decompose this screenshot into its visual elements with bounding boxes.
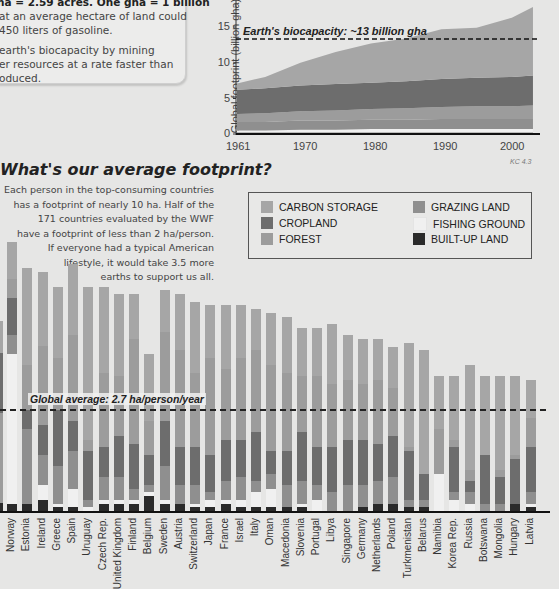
segment-cropland xyxy=(495,477,505,503)
segment-forest xyxy=(526,418,536,448)
segment-carbon-storage xyxy=(312,328,322,377)
segment-forest xyxy=(495,470,505,477)
bar-oman xyxy=(266,313,276,511)
segment-grazing-land xyxy=(205,492,215,499)
segment-forest xyxy=(144,421,154,455)
segment-cropland xyxy=(83,451,93,500)
segment-forest xyxy=(358,384,368,440)
segment-carbon-storage xyxy=(297,328,307,377)
segment-fishing-ground xyxy=(434,474,444,511)
segment-forest xyxy=(83,440,93,451)
segment-grazing-land xyxy=(343,485,353,511)
segment-grazing-land xyxy=(221,481,231,500)
segment-grazing-land xyxy=(38,455,48,485)
segment-cropland xyxy=(22,410,32,429)
bar-norway xyxy=(7,242,17,511)
segment-carbon-storage xyxy=(358,339,368,384)
country-label: Singapore xyxy=(341,518,352,564)
segment-grazing-land xyxy=(129,489,139,500)
country-label: Poland xyxy=(386,518,397,549)
segment-grazing-land xyxy=(144,485,154,492)
segment-carbon-storage xyxy=(495,376,505,470)
bar-macedonia xyxy=(282,317,292,511)
bar-estonia xyxy=(22,268,32,511)
segment-grazing-land xyxy=(68,451,78,488)
segment-carbon-storage xyxy=(266,313,276,365)
segment-grazing-land xyxy=(236,477,246,499)
bar-turkmenistan xyxy=(404,343,414,511)
segment-cropland xyxy=(312,447,322,484)
segment-grazing-land xyxy=(160,466,170,500)
segment-grazing-land xyxy=(480,504,490,511)
segment-cropland xyxy=(480,455,490,504)
segment-grazing-land xyxy=(53,466,63,503)
bar-mongolia xyxy=(495,376,505,511)
segment-forest xyxy=(38,346,48,425)
bar-slovenia xyxy=(297,328,307,511)
segment-cropland xyxy=(53,410,63,466)
country-label: Macedonia xyxy=(280,518,291,567)
segment-forest xyxy=(160,332,170,422)
segment-grazing-land xyxy=(419,500,429,507)
country-label: Netherlands xyxy=(371,518,382,572)
segment-forest xyxy=(465,470,475,481)
segment-cropland xyxy=(282,451,292,485)
segment-forest xyxy=(129,339,139,444)
segment-cropland xyxy=(526,447,536,492)
segment-carbon-storage xyxy=(205,305,215,357)
country-label: Greece xyxy=(51,518,62,551)
segment-grazing-land xyxy=(327,492,337,511)
segment-forest xyxy=(449,440,459,447)
country-label: Mongolia xyxy=(493,518,504,559)
segment-carbon-storage xyxy=(343,335,353,380)
segment-fishing-ground xyxy=(236,500,246,507)
bar-ireland xyxy=(38,272,48,511)
country-label: Namibia xyxy=(432,518,443,555)
segment-cropland xyxy=(465,481,475,492)
segment-grazing-land xyxy=(404,500,414,507)
segment-cropland xyxy=(358,440,368,485)
bar-hungary xyxy=(510,376,520,511)
segment-carbon-storage xyxy=(388,347,398,388)
segment-cropland xyxy=(236,440,246,477)
segment-built-up-land xyxy=(175,504,185,511)
segment-cropland xyxy=(449,447,459,492)
segment-carbon-storage xyxy=(373,339,383,380)
bar-latvia xyxy=(526,380,536,511)
country-label: Belgium xyxy=(142,518,153,554)
bar-germany xyxy=(358,339,368,511)
country-label: Germany xyxy=(356,518,367,559)
country-label: Sweden xyxy=(158,518,169,554)
segment-grazing-land xyxy=(526,492,536,503)
segment-grazing-land xyxy=(83,500,93,507)
segment-built-up-land xyxy=(373,504,383,511)
segment-cropland xyxy=(160,421,170,466)
bar-clipped xyxy=(0,321,3,511)
segment-carbon-storage xyxy=(327,324,337,384)
segment-cropland xyxy=(510,459,520,504)
segment-cropland xyxy=(68,421,78,451)
segment-cropland xyxy=(404,451,414,500)
segment-carbon-storage xyxy=(160,290,170,331)
segment-grazing-land xyxy=(251,481,261,492)
country-label: Estonia xyxy=(20,518,31,551)
segment-grazing-land xyxy=(373,481,383,503)
country-label: Korea Rep. xyxy=(447,518,458,569)
bar-chart-baseline xyxy=(0,511,550,513)
segment-fishing-ground xyxy=(7,354,17,504)
country-label: Israel xyxy=(234,518,245,542)
segment-fishing-ground xyxy=(465,504,475,511)
segment-carbon-storage xyxy=(510,376,520,455)
segment-fishing-ground xyxy=(449,500,459,511)
segment-carbon-storage xyxy=(419,350,429,473)
segment-carbon-storage xyxy=(53,287,63,358)
segment-cropland xyxy=(129,444,139,489)
country-label: Turkmenistan xyxy=(402,518,413,578)
bar-portugal xyxy=(312,328,322,511)
segment-grazing-land xyxy=(495,504,505,511)
segment-carbon-storage xyxy=(434,376,444,428)
country-label: Botswana xyxy=(478,518,489,562)
country-label: Oman xyxy=(264,518,275,545)
segment-forest xyxy=(312,376,322,447)
segment-fishing-ground xyxy=(251,492,261,507)
